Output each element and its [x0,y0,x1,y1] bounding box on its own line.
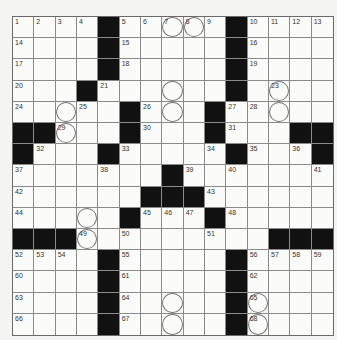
grid-cell[interactable] [312,208,333,229]
grid-cell[interactable]: 37 [13,165,34,186]
grid-cell[interactable] [98,102,119,123]
grid-cell[interactable] [312,293,333,314]
grid-cell[interactable] [205,165,226,186]
grid-cell[interactable] [269,144,290,165]
grid-cell[interactable] [34,102,55,123]
grid-cell[interactable] [269,102,290,123]
grid-cell[interactable]: 64 [120,293,141,314]
grid-cell[interactable] [184,250,205,271]
grid-cell[interactable] [77,59,98,80]
grid-cell[interactable] [269,187,290,208]
grid-cell[interactable] [290,59,311,80]
grid-cell[interactable] [184,123,205,144]
grid-cell[interactable] [290,38,311,59]
grid-cell[interactable] [98,229,119,250]
grid-cell[interactable] [184,314,205,335]
grid-cell[interactable] [34,38,55,59]
grid-cell[interactable] [205,59,226,80]
grid-cell[interactable] [162,102,183,123]
grid-cell[interactable] [269,59,290,80]
grid-cell[interactable] [248,187,269,208]
grid-cell[interactable]: 29 [56,123,77,144]
grid-cell[interactable]: 36 [290,144,311,165]
grid-cell[interactable] [77,293,98,314]
grid-cell[interactable]: 59 [312,250,333,271]
grid-cell[interactable] [269,123,290,144]
grid-cell[interactable] [56,293,77,314]
grid-cell[interactable]: 56 [248,250,269,271]
grid-cell[interactable] [290,102,311,123]
grid-cell[interactable]: 14 [13,38,34,59]
grid-cell[interactable]: 67 [120,314,141,335]
grid-cell[interactable] [184,59,205,80]
grid-cell[interactable] [141,250,162,271]
grid-cell[interactable] [248,123,269,144]
grid-cell[interactable] [77,187,98,208]
grid-cell[interactable] [162,123,183,144]
grid-cell[interactable]: 24 [13,102,34,123]
grid-cell[interactable]: 19 [248,59,269,80]
grid-cell[interactable] [312,187,333,208]
grid-cell[interactable]: 44 [13,208,34,229]
grid-cell[interactable] [162,271,183,292]
grid-cell[interactable] [248,81,269,102]
grid-cell[interactable] [77,165,98,186]
grid-cell[interactable]: 62 [248,271,269,292]
grid-cell[interactable]: 35 [248,144,269,165]
grid-cell[interactable]: 63 [13,293,34,314]
grid-cell[interactable] [269,271,290,292]
grid-cell[interactable]: 61 [120,271,141,292]
grid-cell[interactable] [269,314,290,335]
grid-cell[interactable] [312,59,333,80]
grid-cell[interactable]: 20 [13,81,34,102]
grid-cell[interactable]: 5 [120,17,141,38]
grid-cell[interactable]: 13 [312,17,333,38]
grid-cell[interactable] [269,293,290,314]
grid-cell[interactable]: 57 [269,250,290,271]
grid-cell[interactable] [205,314,226,335]
grid-cell[interactable] [248,229,269,250]
grid-cell[interactable]: 3 [56,17,77,38]
grid-cell[interactable] [269,38,290,59]
grid-cell[interactable] [56,165,77,186]
grid-cell[interactable]: 50 [120,229,141,250]
grid-cell[interactable] [162,293,183,314]
grid-cell[interactable]: 39 [184,165,205,186]
grid-cell[interactable] [56,81,77,102]
grid-cell[interactable] [290,208,311,229]
grid-cell[interactable] [34,293,55,314]
grid-cell[interactable]: 18 [120,59,141,80]
grid-cell[interactable]: 46 [162,208,183,229]
grid-cell[interactable] [184,81,205,102]
grid-cell[interactable]: 1 [13,17,34,38]
grid-cell[interactable] [312,81,333,102]
grid-cell[interactable]: 33 [120,144,141,165]
grid-cell[interactable] [141,293,162,314]
grid-cell[interactable]: 4 [77,17,98,38]
grid-cell[interactable] [205,38,226,59]
grid-cell[interactable]: 25 [77,102,98,123]
grid-cell[interactable]: 17 [13,59,34,80]
grid-cell[interactable] [34,59,55,80]
grid-cell[interactable]: 54 [56,250,77,271]
grid-cell[interactable]: 38 [98,165,119,186]
grid-cell[interactable]: 15 [120,38,141,59]
grid-cell[interactable]: 27 [226,102,247,123]
grid-cell[interactable] [184,293,205,314]
grid-cell[interactable] [269,208,290,229]
grid-cell[interactable] [141,81,162,102]
grid-cell[interactable] [56,144,77,165]
grid-cell[interactable] [141,271,162,292]
grid-cell[interactable] [162,59,183,80]
grid-cell[interactable] [162,38,183,59]
grid-cell[interactable]: 7 [162,17,183,38]
grid-cell[interactable] [226,229,247,250]
grid-cell[interactable]: 41 [312,165,333,186]
grid-cell[interactable]: 8 [184,17,205,38]
grid-cell[interactable]: 40 [226,165,247,186]
grid-cell[interactable] [77,123,98,144]
grid-cell[interactable]: 32 [34,144,55,165]
grid-cell[interactable] [162,144,183,165]
grid-cell[interactable]: 34 [205,144,226,165]
grid-cell[interactable] [120,187,141,208]
